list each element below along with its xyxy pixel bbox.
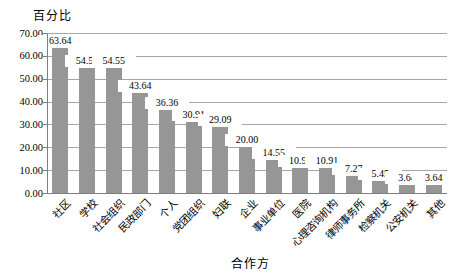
y-tick-label: 60.00 (0, 50, 43, 61)
bar (186, 122, 202, 193)
x-category-label: 企业 (238, 198, 260, 220)
y-axis-title: 百分比 (33, 6, 72, 24)
bar-value-label: 29.09 (198, 114, 242, 126)
y-tick-label: 30.00 (0, 119, 43, 130)
y-axis-line (47, 33, 48, 193)
bar (159, 110, 175, 193)
bar-value-label: 3.64 (412, 172, 456, 184)
x-category-label: 妇联 (211, 198, 233, 220)
x-category-label: 个人 (158, 198, 180, 220)
y-tick-label: 0.00 (0, 188, 43, 199)
bar-value-label: 63.64 (38, 35, 82, 47)
bar (52, 48, 68, 193)
x-category-label: 其他 (425, 198, 447, 220)
y-tick-label: 20.00 (0, 142, 43, 153)
bar-chart: 百分比 70.0060.0050.0040.0030.0020.0010.000… (0, 0, 462, 280)
bar-value-label: 20.00 (225, 134, 269, 146)
bar (79, 68, 95, 193)
bar-value-label: 54.55 (92, 55, 136, 67)
x-axis-title: 合作方 (217, 254, 283, 272)
bar (426, 185, 442, 193)
y-tick-label: 40.00 (0, 96, 43, 107)
bar-value-label: 36.36 (145, 97, 189, 109)
x-category-label: 医院 (291, 198, 313, 220)
y-tick-label: 10.00 (0, 165, 43, 176)
x-axis-line (42, 193, 447, 194)
bar-value-label: 43.64 (118, 80, 162, 92)
x-category-label: 学校 (78, 198, 100, 220)
x-category-label: 社区 (51, 198, 73, 220)
y-tick-label: 50.00 (0, 73, 43, 84)
bar (292, 168, 308, 193)
bar (399, 185, 415, 193)
gridline (47, 33, 447, 34)
y-tick-label: 70.00 (0, 28, 43, 39)
